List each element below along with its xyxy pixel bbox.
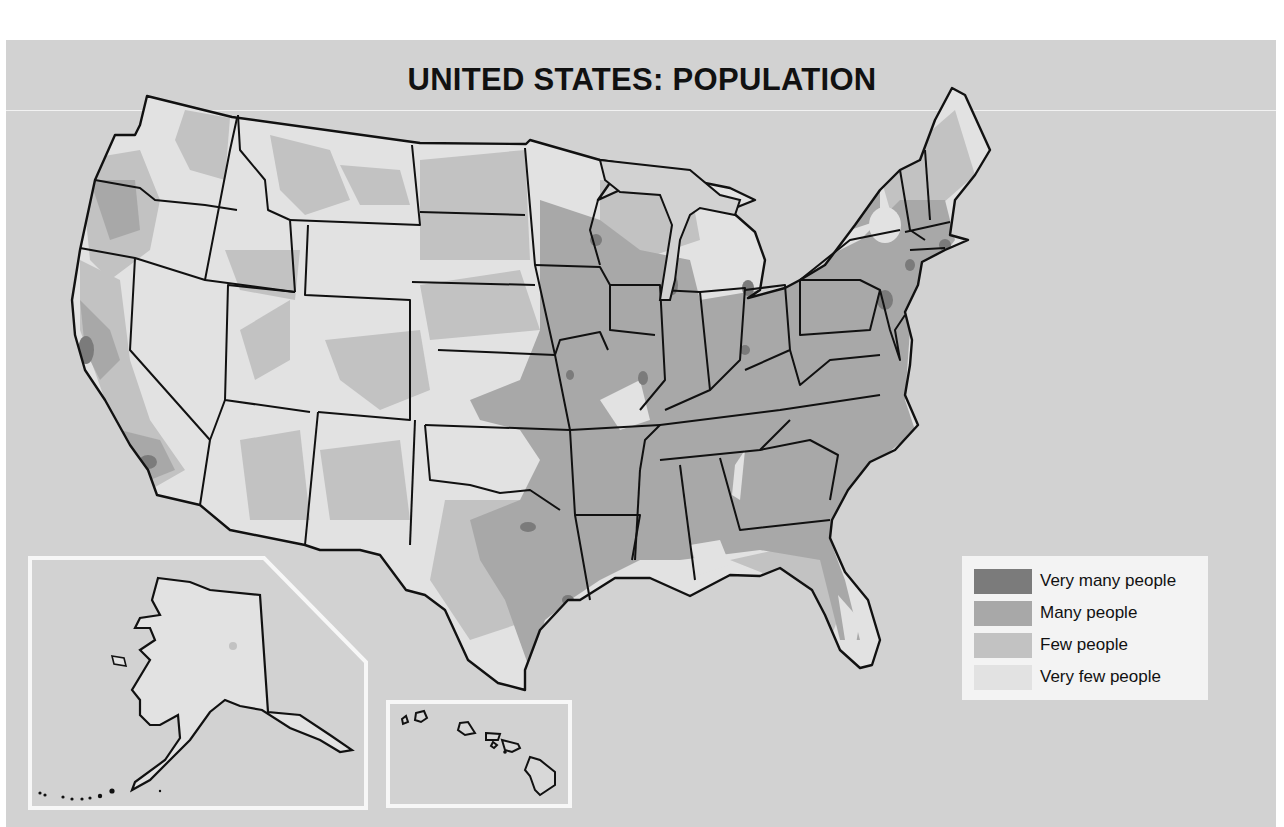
aleutian-islands <box>38 788 161 800</box>
swatch-few <box>974 633 1032 658</box>
legend-label: Very many people <box>1040 571 1176 591</box>
swatch-very-few <box>974 665 1032 690</box>
legend-label: Many people <box>1040 603 1137 623</box>
st-lawrence-island <box>112 656 126 666</box>
legend-item-many: Many people <box>974 600 1137 626</box>
legend-item-very-few: Very few people <box>974 664 1161 690</box>
legend-item-few: Few people <box>974 632 1128 658</box>
kahoolawe-island <box>503 750 507 754</box>
alaska-shape <box>132 578 352 790</box>
swatch-very-many <box>974 569 1032 594</box>
hawaii-islands <box>402 711 555 795</box>
us-population-map <box>0 0 1284 827</box>
legend-label: Few people <box>1040 635 1128 655</box>
swatch-many <box>974 601 1032 626</box>
legend-item-very-many: Very many people <box>974 568 1176 594</box>
legend-label: Very few people <box>1040 667 1161 687</box>
legend: Very many people Many people Few people … <box>962 556 1208 700</box>
alaska-population-dot <box>229 642 237 650</box>
